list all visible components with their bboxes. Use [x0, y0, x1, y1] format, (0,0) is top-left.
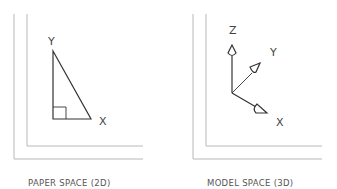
model-x-label: X	[276, 116, 284, 129]
ucs-axes-icon	[228, 45, 267, 113]
paper-space-frame	[14, 14, 143, 159]
model-space-caption: MODEL SPACE (3D)	[207, 178, 293, 188]
model-space-panel: Z Y X MODEL SPACE (3D)	[193, 14, 322, 188]
z-arrow-icon	[228, 45, 236, 56]
model-space-frame	[193, 14, 322, 159]
diagram-canvas: Y X PAPER SPACE (2D) Z Y X MODEL SPACE (…	[0, 0, 337, 189]
paper-x-label: X	[99, 115, 107, 128]
triangle-icon	[53, 51, 91, 119]
model-z-label: Z	[229, 24, 237, 37]
paper-space-panel: Y X PAPER SPACE (2D)	[14, 14, 143, 188]
paper-space-caption: PAPER SPACE (2D)	[28, 178, 111, 188]
paper-y-label: Y	[47, 35, 55, 48]
x-arrow-icon	[254, 104, 267, 113]
model-y-label: Y	[269, 46, 277, 59]
y-arrow-icon	[250, 63, 260, 72]
